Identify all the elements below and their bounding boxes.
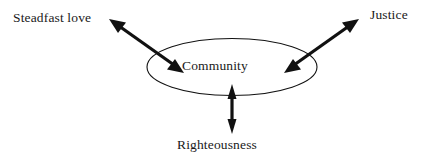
righteousness-arrowhead-top bbox=[228, 84, 237, 99]
righteousness-arrowhead-bottom bbox=[228, 119, 237, 134]
node-label-steadfast-love: Steadfast love bbox=[13, 11, 91, 25]
righteousness-arrow bbox=[228, 84, 237, 134]
node-label-justice: Justice bbox=[370, 8, 408, 22]
center-label-community: Community bbox=[0, 59, 430, 73]
diagram-canvas: Steadfast love Justice Righteousness Com… bbox=[0, 0, 430, 162]
node-label-righteousness: Righteousness bbox=[177, 138, 257, 152]
